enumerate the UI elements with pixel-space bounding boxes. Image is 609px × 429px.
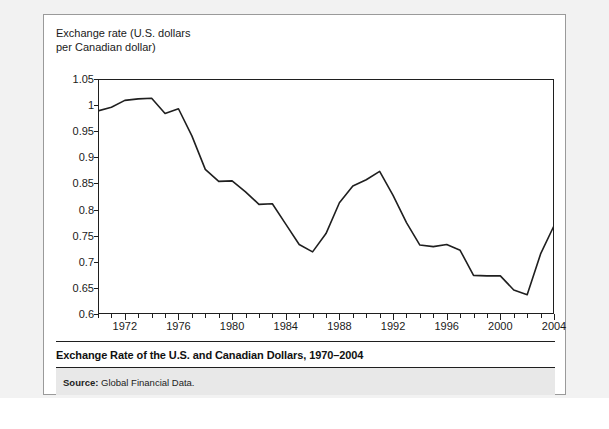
x-tick-mark-minor (420, 314, 421, 318)
x-tick-label: 1992 (381, 320, 405, 332)
x-tick-mark-minor (326, 314, 327, 318)
x-tick-mark-minor (541, 314, 542, 318)
page-bottom-margin (0, 398, 609, 429)
y-tick-mark (94, 288, 98, 289)
x-tick-mark-minor (219, 314, 220, 318)
x-tick-mark-minor (474, 314, 475, 318)
y-tick-label: 0.8 (79, 204, 94, 216)
x-axis-tick-labels: 197219761980198419881992199620002004 (98, 320, 554, 336)
x-tick-label: 2004 (542, 320, 566, 332)
figure-card-inner: Exchange rate (U.S. dollars per Canadian… (44, 15, 565, 394)
x-tick-mark-minor (313, 314, 314, 318)
y-tick-label: 0.6 (79, 308, 94, 320)
x-tick-mark-minor (380, 314, 381, 318)
x-tick-mark-minor (487, 314, 488, 318)
x-tick-mark-minor (514, 314, 515, 318)
figure-caption: Exchange Rate of the U.S. and Canadian D… (56, 349, 555, 361)
y-tick-mark (94, 183, 98, 184)
x-tick-label: 1980 (220, 320, 244, 332)
x-tick-label: 1988 (327, 320, 351, 332)
y-tick-label: 0.95 (73, 125, 94, 137)
y-tick-label: 0.75 (73, 230, 94, 242)
x-tick-label: 1996 (434, 320, 458, 332)
plot-area (98, 79, 554, 314)
figure-card: Exchange rate (U.S. dollars per Canadian… (43, 14, 566, 395)
y-tick-label: 0.85 (73, 177, 94, 189)
x-tick-mark-minor (299, 314, 300, 318)
x-tick-mark-minor (152, 314, 153, 318)
y-tick-label: 0.9 (79, 151, 94, 163)
y-tick-mark (94, 105, 98, 106)
x-tick-mark-minor (165, 314, 166, 318)
x-tick-mark-minor (353, 314, 354, 318)
y-tick-mark (94, 314, 98, 315)
y-tick-mark (94, 157, 98, 158)
y-axis-tick-labels: 1.0510.950.90.850.80.750.70.650.6 (52, 79, 94, 314)
x-tick-label: 1976 (166, 320, 190, 332)
x-tick-mark-minor (433, 314, 434, 318)
y-tick-mark (94, 79, 98, 80)
caption-divider-top (56, 341, 555, 342)
source-label: Source: (63, 377, 98, 388)
x-tick-mark-minor (98, 314, 99, 318)
y-tick-label: 0.7 (79, 256, 94, 268)
x-tick-mark-minor (272, 314, 273, 318)
x-tick-label: 1984 (274, 320, 298, 332)
x-tick-mark-minor (527, 314, 528, 318)
x-tick-label: 2000 (488, 320, 512, 332)
x-tick-label: 1972 (113, 320, 137, 332)
y-tick-label: 1.05 (73, 73, 94, 85)
x-tick-mark-minor (246, 314, 247, 318)
y-tick-label: 0.65 (73, 282, 94, 294)
x-tick-mark-minor (111, 314, 112, 318)
y-tick-mark (94, 131, 98, 132)
source-value: Global Financial Data. (101, 377, 194, 388)
exchange-rate-line-series (98, 79, 554, 314)
figure-page: Exchange rate (U.S. dollars per Canadian… (0, 0, 609, 429)
x-tick-mark-minor (259, 314, 260, 318)
y-tick-mark (94, 210, 98, 211)
x-tick-mark-minor (138, 314, 139, 318)
x-tick-mark-minor (406, 314, 407, 318)
source-note: Source: Global Financial Data. (63, 377, 194, 388)
x-tick-mark-minor (460, 314, 461, 318)
x-tick-mark-minor (192, 314, 193, 318)
y-tick-mark (94, 262, 98, 263)
y-tick-mark (94, 236, 98, 237)
x-tick-mark-minor (366, 314, 367, 318)
x-tick-mark-minor (205, 314, 206, 318)
y-axis-title: Exchange rate (U.S. dollars per Canadian… (56, 26, 191, 54)
